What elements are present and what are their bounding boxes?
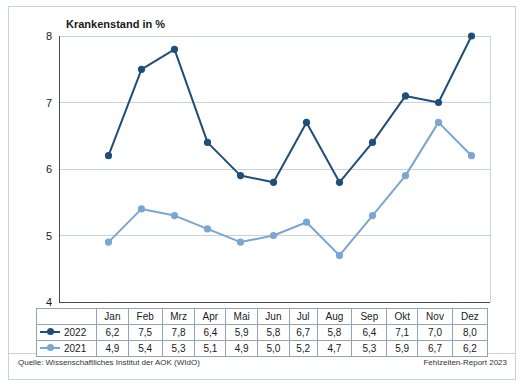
svg-text:4: 4 xyxy=(46,296,52,308)
series-name-2022: 2022 xyxy=(64,327,86,338)
chart-title: Krankenstand in % xyxy=(63,17,168,31)
month-header-cell: Dez xyxy=(452,309,487,325)
svg-text:8: 8 xyxy=(46,30,52,42)
month-header-cell: Mai xyxy=(226,309,258,325)
month-header-cell: Jul xyxy=(289,309,317,325)
month-header-cell: Okt xyxy=(387,309,418,325)
value-cell: 5,0 xyxy=(258,341,290,357)
month-header-cell: Apr xyxy=(195,309,226,325)
month-header-cell: Sep xyxy=(352,309,387,325)
value-cell: 5,3 xyxy=(162,341,195,357)
value-cell: 7,0 xyxy=(418,325,453,341)
svg-text:6: 6 xyxy=(46,163,52,175)
value-cell: 6,7 xyxy=(289,325,317,341)
value-cell: 5,4 xyxy=(128,341,162,357)
month-header-cell: Mrz xyxy=(162,309,195,325)
value-cell: 5,9 xyxy=(226,325,258,341)
data-table: Jan Feb Mrz Apr Mai Jun Jul Aug Sep Okt … xyxy=(36,308,488,357)
month-header-cell: Jun xyxy=(258,309,290,325)
value-cell: 5,2 xyxy=(289,341,317,357)
month-header-cell: Nov xyxy=(418,309,453,325)
table-row-2022: 2022 6,2 7,5 7,8 6,4 5,9 5,8 6,7 5,8 6,4… xyxy=(37,325,488,341)
month-header-cell: Aug xyxy=(317,309,352,325)
value-cell: 5,9 xyxy=(387,341,418,357)
value-cell: 6,4 xyxy=(352,325,387,341)
svg-text:5: 5 xyxy=(46,230,52,242)
value-cell: 5,8 xyxy=(317,325,352,341)
month-header-cell: Jan xyxy=(97,309,129,325)
source-note: Quelle: Wissenschaftliches Institut der … xyxy=(18,358,200,367)
value-cell: 4,7 xyxy=(317,341,352,357)
value-cell: 8,0 xyxy=(452,325,487,341)
legend-item-2022: 2022 xyxy=(37,325,97,341)
table-row-2021: 2021 4,9 5,4 5,3 5,1 4,9 5,0 5,2 4,7 5,3… xyxy=(37,341,488,357)
series-name-2021: 2021 xyxy=(64,343,86,354)
value-cell: 5,3 xyxy=(352,341,387,357)
value-cell: 7,8 xyxy=(162,325,195,341)
legend-line-2021 xyxy=(40,347,60,349)
table-row-months: Jan Feb Mrz Apr Mai Jun Jul Aug Sep Okt … xyxy=(37,309,488,325)
value-cell: 6,2 xyxy=(452,341,487,357)
value-cell: 6,4 xyxy=(195,325,226,341)
table-corner-cell xyxy=(37,309,97,325)
value-cell: 5,1 xyxy=(195,341,226,357)
value-cell: 4,9 xyxy=(97,341,129,357)
month-header-cell: Feb xyxy=(128,309,162,325)
chart-page: Krankenstand in % 45678 Jan Feb Mrz Apr … xyxy=(0,0,527,391)
value-cell: 5,8 xyxy=(258,325,290,341)
svg-text:7: 7 xyxy=(46,97,52,109)
value-cell: 7,5 xyxy=(128,325,162,341)
value-cell: 7,1 xyxy=(387,325,418,341)
value-cell: 6,7 xyxy=(418,341,453,357)
legend-line-2022 xyxy=(40,331,60,333)
legend-item-2021: 2021 xyxy=(37,341,97,357)
value-cell: 4,9 xyxy=(226,341,258,357)
report-note: Fehlzeiten-Report 2023 xyxy=(423,358,507,367)
value-cell: 6,2 xyxy=(97,325,129,341)
